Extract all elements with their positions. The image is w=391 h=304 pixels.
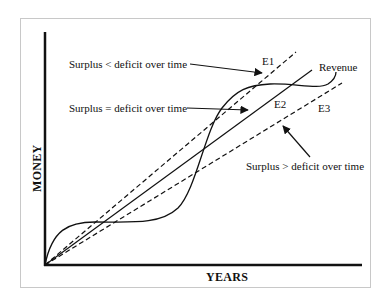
label-e3: E3 — [318, 102, 330, 114]
arrow-surplus-equal — [187, 108, 248, 110]
arrow-surplus-less — [190, 64, 262, 73]
annotation-surplus-less: Surplus < deficit over time — [69, 58, 187, 70]
annotation-surplus-equal: Surplus = deficit over time — [69, 102, 187, 114]
e1-line — [45, 52, 296, 265]
label-revenue: Revenue — [319, 61, 357, 73]
label-e2: E2 — [274, 98, 286, 110]
label-e1: E1 — [262, 55, 274, 67]
x-axis-label: YEARS — [206, 270, 248, 285]
annotation-surplus-greater: Surplus > deficit over time — [246, 160, 364, 172]
arrow-surplus-greater — [283, 126, 310, 157]
diagram-canvas — [0, 0, 391, 304]
y-axis-label: MONEY — [30, 145, 45, 193]
